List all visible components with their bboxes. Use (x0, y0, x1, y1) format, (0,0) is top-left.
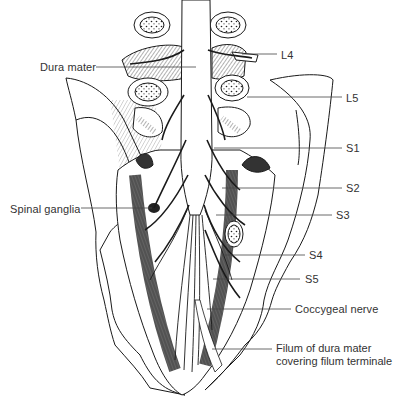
label-s1: S1 (346, 142, 360, 154)
label-l4: L4 (281, 49, 293, 61)
label-s4: S4 (309, 249, 323, 261)
label-filum-line2: covering filum terminale (276, 355, 392, 368)
label-filum-line1: Filum of dura mater (276, 342, 371, 355)
label-dura-mater: Dura mater (40, 61, 96, 73)
label-coccygeal-nerve: Coccygeal nerve (295, 303, 378, 315)
label-s5: S5 (305, 273, 319, 285)
dural-sac (181, 0, 212, 215)
sacral-foramen-s3-right (225, 221, 243, 247)
label-s3: S3 (336, 209, 350, 221)
label-l5: L5 (346, 92, 358, 104)
label-spinal-ganglia: Spinal ganglia (10, 203, 81, 215)
label-s2: S2 (346, 182, 360, 194)
